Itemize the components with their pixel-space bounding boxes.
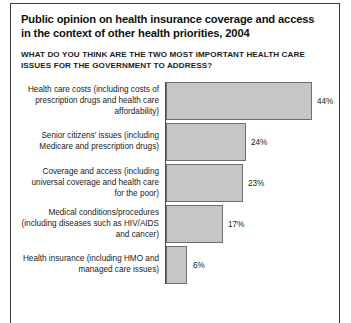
bar-chart-plot: Health care costs (including costs of pr… xyxy=(21,82,331,290)
bar-value-label: 6% xyxy=(193,261,205,270)
bar-value-label: 17% xyxy=(228,220,244,229)
survey-question: WHAT DO YOU THINK ARE THE TWO MOST IMPOR… xyxy=(21,50,321,72)
bar-value-label: 44% xyxy=(317,97,333,106)
bar-category-label: Health insurance (including HMO and mana… xyxy=(21,255,159,276)
bar-row: Health care costs (including costs of pr… xyxy=(21,82,331,120)
bar-rect xyxy=(166,246,187,284)
bar-row: Senior citizens' issues (including Medic… xyxy=(21,123,331,161)
bar-value-label: 23% xyxy=(248,179,264,188)
bar-value-label: 24% xyxy=(251,138,267,147)
bar-row: Medical conditions/procedures (including… xyxy=(21,205,331,243)
bar-row: Coverage and access (including universal… xyxy=(21,164,331,202)
bar-rect xyxy=(166,205,223,243)
page-title: Public opinion on health insurance cover… xyxy=(21,12,326,41)
bar-category-label: Medical conditions/procedures (including… xyxy=(21,208,159,240)
bar-category-label: Coverage and access (including universal… xyxy=(21,167,159,199)
figure-frame: Public opinion on health insurance cover… xyxy=(10,3,340,323)
bar-rect xyxy=(166,123,246,161)
figure-content: Public opinion on health insurance cover… xyxy=(11,4,339,323)
bar-row: Health insurance (including HMO and mana… xyxy=(21,246,331,284)
bar-category-label: Health care costs (including costs of pr… xyxy=(21,85,159,117)
bar-rect xyxy=(166,164,243,202)
bar-rect xyxy=(166,82,312,120)
bar-category-label: Senior citizens' issues (including Medic… xyxy=(21,132,159,153)
